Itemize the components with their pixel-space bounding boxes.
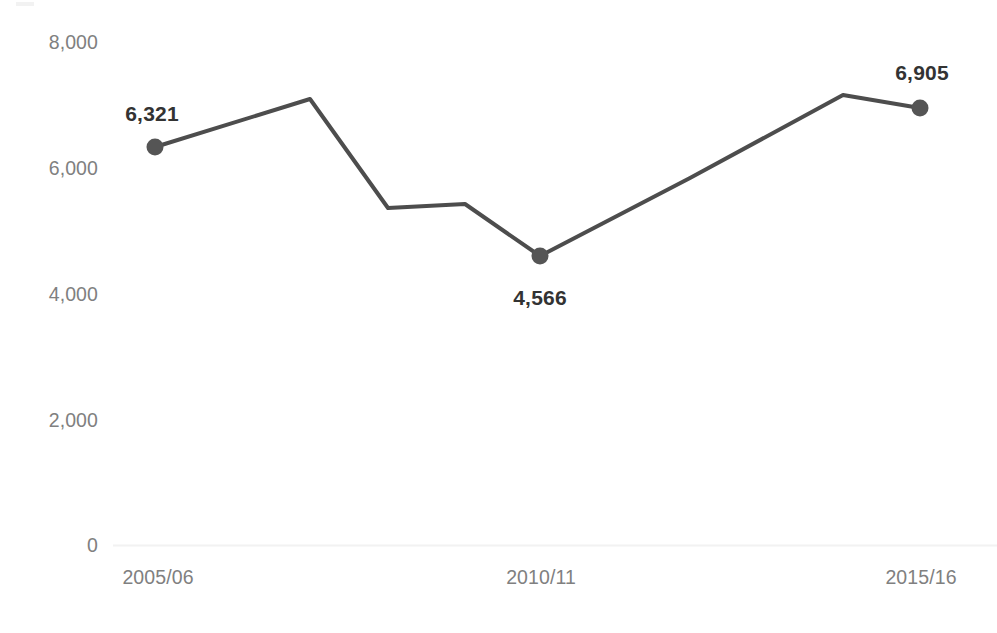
data-label-last-point: 6,905: [895, 61, 949, 85]
data-point-marker: [532, 248, 549, 265]
data-label-first-point: 6,321: [125, 102, 179, 126]
data-label-min-point: 4,566: [513, 286, 567, 310]
y-axis-tick-8000: 8,000: [0, 31, 98, 54]
y-axis-tick-4000: 4,000: [0, 283, 98, 306]
y-axis-tick-2000: 2,000: [0, 409, 98, 432]
data-point-marker: [147, 139, 164, 156]
x-axis-tick-2005-06: 2005/06: [122, 566, 193, 589]
x-axis-tick-2010-11: 2010/11: [506, 566, 576, 589]
line-chart: 8,000 6,000 4,000 2,000 0 2005/06 2010/1…: [0, 0, 997, 633]
y-axis-tick-6000: 6,000: [0, 157, 98, 180]
data-series-line: [155, 95, 920, 256]
y-axis-tick-0: 0: [0, 534, 98, 557]
chart-plot-area: [0, 0, 997, 633]
x-axis-tick-2015-16: 2015/16: [885, 566, 956, 589]
data-point-marker: [912, 100, 929, 117]
